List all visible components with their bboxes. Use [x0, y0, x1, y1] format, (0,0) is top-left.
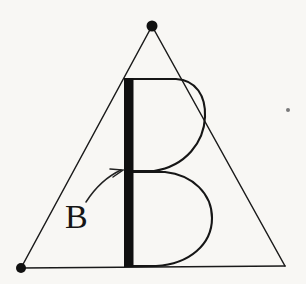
large-letter-b	[124, 78, 212, 267]
letter-b-upper-bowl	[129, 79, 205, 171]
triangle-edge-right	[152, 26, 285, 266]
vertex-dot-bottom-left	[16, 263, 26, 273]
b-callout: B	[65, 169, 123, 235]
callout-label: B	[65, 198, 88, 235]
scan-speck-artifact	[286, 108, 290, 112]
figure-canvas: B	[0, 0, 306, 284]
letter-b-lower-bowl	[129, 172, 212, 266]
vertex-dot-apex	[147, 21, 158, 32]
letter-b-stem	[124, 78, 134, 267]
enclosing-triangle	[21, 26, 285, 268]
figure-svg: B	[0, 0, 306, 284]
